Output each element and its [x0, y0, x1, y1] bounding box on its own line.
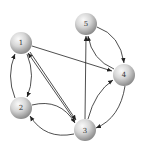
edge-5-4: [97, 27, 124, 63]
nodes: 1 2 3 4 5: [10, 13, 135, 141]
node-3-label: 3: [83, 127, 87, 135]
edge-2-3: [32, 103, 75, 123]
node-2-label: 2: [19, 104, 23, 112]
node-5[interactable]: 5: [75, 13, 97, 35]
edge-3-1: [28, 53, 75, 121]
node-4-label: 4: [122, 71, 127, 79]
node-3[interactable]: 3: [74, 119, 96, 141]
edge-2-1: [11, 54, 16, 98]
edge-1-4: [32, 46, 112, 71]
edge-3-5: [85, 36, 86, 119]
edge-1-2: [27, 54, 32, 97]
node-2[interactable]: 2: [10, 97, 32, 119]
edge-1-3: [30, 52, 76, 120]
graph-canvas: 1 2 3 4 5: [0, 0, 145, 151]
edge-4-5: [88, 36, 114, 69]
node-5-label: 5: [84, 20, 88, 28]
node-4[interactable]: 4: [113, 64, 135, 86]
edge-3-2: [30, 116, 74, 135]
node-1-label: 1: [19, 39, 23, 47]
edge-3-4: [88, 80, 113, 119]
node-1[interactable]: 1: [10, 32, 32, 54]
